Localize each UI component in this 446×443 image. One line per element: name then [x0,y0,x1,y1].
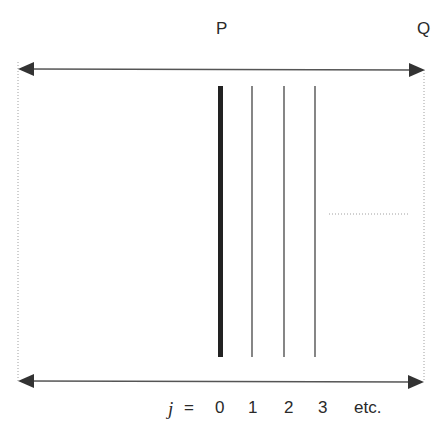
index-variable: j [168,398,173,420]
diagram-canvas [0,0,446,443]
index-value-3: 3 [318,398,327,418]
index-etc: etc. [354,398,381,418]
index-equals: = [184,398,194,418]
index-value-2: 2 [284,398,293,418]
index-value-0: 0 [215,398,224,418]
bottom-double-arrow [18,374,424,389]
index-value-1: 1 [248,398,257,418]
top-double-arrow [18,62,425,77]
